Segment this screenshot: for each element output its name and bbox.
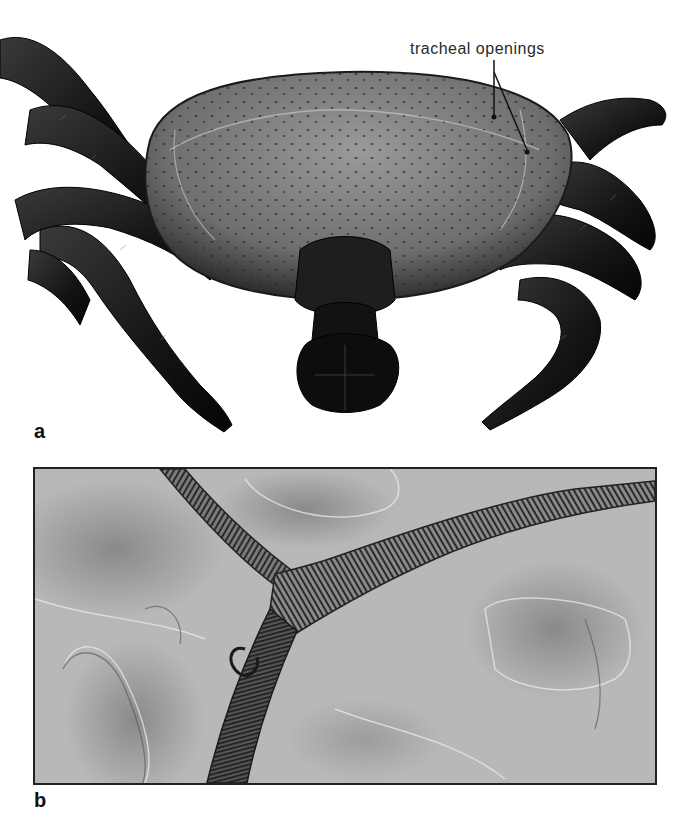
panel-label-a: a (34, 420, 45, 443)
trachea-micrograph (35, 469, 655, 783)
mouthparts (295, 237, 399, 413)
callout-tracheal-openings: tracheal openings (410, 40, 545, 58)
tick-illustration (0, 0, 689, 445)
panel-label-b: b (34, 789, 46, 812)
panel-b-micrograph (33, 467, 657, 785)
tracheal-opening-marker-1 (492, 115, 497, 120)
tracheal-opening-marker-2 (525, 150, 530, 155)
panel-a-sem-image: tracheal openings (0, 0, 689, 445)
figure: tracheal openings a (0, 0, 689, 831)
